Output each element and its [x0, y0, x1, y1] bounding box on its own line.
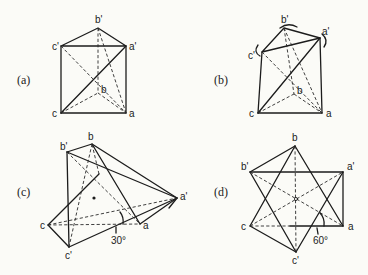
panel-d: (d) 60° b b' a' c a c': [214, 132, 355, 266]
hidden-diag-c-a-prime: [250, 172, 343, 226]
hidden-edge-cb: [258, 94, 294, 113]
vertex-b: b: [297, 85, 303, 96]
vertex-a-prime: a': [322, 26, 330, 37]
vertex-a-prime: a': [180, 191, 188, 202]
vertex-b-prime: b': [60, 141, 68, 152]
vertex-c-prime: c': [65, 250, 72, 261]
vertex-a: a: [326, 108, 332, 119]
edge-b-prime-c-prime: [67, 152, 69, 247]
rotation-arrow-c-prime-icon: [256, 45, 260, 56]
center-dot: [92, 196, 95, 199]
vertex-c: c: [249, 108, 254, 119]
top-triangle: [61, 28, 126, 46]
vertex-b: b: [292, 132, 298, 143]
edge-cc-prime: [258, 52, 262, 113]
hidden-edge-cb: [61, 93, 98, 113]
panel-c-label: (c): [17, 185, 30, 199]
angle-label-60: 60°: [313, 235, 328, 246]
hidden-axis-bc-prime: [295, 146, 296, 252]
edge-aa-prime: [320, 38, 322, 113]
vertex-b-prime: b': [281, 14, 289, 25]
angle-arc-icon: [320, 213, 324, 226]
edge-c-a-prime: [61, 46, 126, 113]
hidden-edge-ba: [98, 93, 126, 113]
edge-b-prime-a-prime: [67, 152, 177, 198]
vertex-c: c: [52, 108, 57, 119]
edge-c-c-prime: [48, 225, 69, 247]
edge-c-a-prime: [258, 38, 320, 113]
vertex-c-prime: c': [292, 255, 299, 266]
edge-c-b-visible: [48, 174, 99, 225]
vertex-a-prime: a': [347, 161, 355, 172]
upper-edges: [67, 144, 177, 208]
angle-arc-icon: [120, 212, 123, 224]
vertex-a: a: [129, 108, 135, 119]
vertex-c-prime: c': [248, 50, 255, 61]
vertex-a: a: [348, 221, 354, 232]
panel-b: (b) b' c' a' b c a: [214, 14, 332, 119]
hidden-edge-b-c-prime: [69, 144, 92, 247]
vertex-a-prime: a': [129, 41, 137, 52]
rotation-arrow-b-prime-icon: [280, 25, 297, 28]
panel-a-label: (a): [17, 73, 30, 87]
panel-a: (a) b' c' a' b c a: [17, 14, 137, 119]
vertex-c: c: [241, 221, 246, 232]
vertex-b-prime: b': [95, 14, 103, 25]
vertex-c-prime: c': [52, 41, 59, 52]
hidden-edge-bb-prime: [284, 28, 294, 94]
panel-d-label: (d): [214, 185, 228, 199]
vertex-b: b: [101, 84, 107, 95]
angle-label-30: 30°: [111, 235, 126, 246]
angle-pointer: [317, 228, 318, 234]
panel-c: (c) 30° b b' a' c a c': [17, 131, 188, 261]
hidden-edge-ca: [48, 224, 140, 225]
prism-twist-diagram: (a) b' c' a' b c a (b): [0, 0, 368, 275]
vertex-a: a: [143, 220, 149, 231]
panel-b-label: (b): [214, 73, 228, 87]
vertex-b-prime: b': [241, 161, 249, 172]
hidden-diag-b-prime-a: [250, 172, 343, 226]
vertex-b: b: [88, 131, 94, 142]
vertex-c: c: [40, 220, 45, 231]
edge-c-b: [250, 146, 295, 226]
